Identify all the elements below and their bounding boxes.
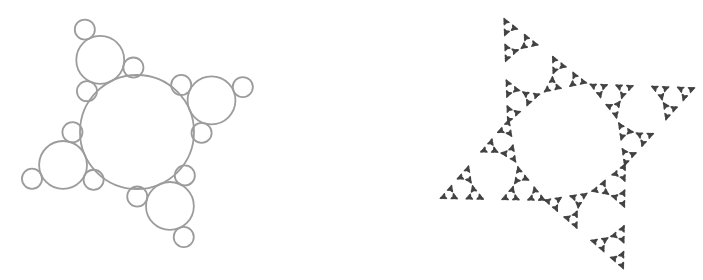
blob-depth-6 <box>584 81 585 82</box>
blob-depth-6 <box>509 82 510 83</box>
blob-depth-6 <box>644 141 645 142</box>
blob-depth-6 <box>616 86 617 87</box>
blob-depth-6 <box>504 46 505 47</box>
blob-depth-6 <box>513 188 514 189</box>
blob-depth-6 <box>521 171 522 172</box>
blob-depth-6 <box>614 113 615 114</box>
blob-depth-6 <box>508 110 509 111</box>
blob-depth-6 <box>624 181 625 182</box>
blob-depth-6 <box>532 196 533 197</box>
blob-depth-6 <box>585 194 586 195</box>
blob-depth-6 <box>584 197 585 198</box>
blob-depth-6 <box>675 106 676 107</box>
blob-depth-6 <box>493 148 494 149</box>
blob-depth-6 <box>670 114 671 115</box>
blob-depth-6 <box>513 186 514 187</box>
blob-depth-6 <box>485 148 486 149</box>
blob-depth-6 <box>623 169 624 170</box>
blob-depth-6 <box>620 135 621 136</box>
blob-depth-6 <box>514 199 515 200</box>
blob-depth-6 <box>621 202 622 203</box>
blob-depth-6 <box>572 76 573 77</box>
blob-depth-6 <box>490 140 491 141</box>
blob-depth-6 <box>491 152 492 153</box>
blob-depth-6 <box>512 118 513 119</box>
blob-depth-6 <box>622 148 623 149</box>
blob-depth-6 <box>511 159 512 160</box>
blob-depth-6 <box>518 89 519 90</box>
blob-depth-6 <box>479 194 480 195</box>
blob-depth-6 <box>472 185 473 186</box>
blob-depth-6 <box>547 87 548 88</box>
circle-fractal-image <box>22 20 253 248</box>
blob-depth-6 <box>528 198 529 199</box>
blob-depth-6 <box>473 187 474 188</box>
blob-depth-6 <box>514 86 515 87</box>
blob-depth-6 <box>604 243 605 244</box>
blob-depth-6 <box>505 34 506 35</box>
blob-depth-6 <box>623 175 624 176</box>
blob-depth-6 <box>528 180 529 181</box>
blob-depth-6 <box>603 245 604 246</box>
blob-depth-6 <box>685 95 686 96</box>
blob-depth-6 <box>642 140 643 141</box>
blob-depth-6 <box>566 66 567 67</box>
blob-depth-6 <box>561 67 562 68</box>
blob-depth-6 <box>536 97 537 98</box>
blob-depth-6 <box>574 73 575 74</box>
blob-depth-6 <box>536 43 537 44</box>
blob-depth-6 <box>500 128 501 129</box>
blob-depth-6 <box>529 101 530 102</box>
blob-depth-6 <box>520 111 521 112</box>
blob-depth-6 <box>522 48 523 49</box>
blob-depth-6 <box>502 153 503 154</box>
blob-depth-6 <box>623 262 624 263</box>
blob-depth-6 <box>452 191 453 192</box>
blob-depth-6 <box>624 207 625 208</box>
blob-depth-6 <box>593 189 594 190</box>
blob-depth-6 <box>600 97 601 98</box>
blob-depth-6 <box>554 198 555 199</box>
blob-depth-6 <box>665 90 666 91</box>
blob-depth-6 <box>624 191 625 192</box>
blob-depth-6 <box>677 106 678 107</box>
blob-depth-6 <box>549 204 550 205</box>
blob-depth-6 <box>576 228 577 229</box>
blob-depth-6 <box>612 236 613 237</box>
blob-depth-6 <box>576 194 577 195</box>
blob-depth-6 <box>514 155 515 156</box>
blob-depth-6 <box>524 38 525 39</box>
blob-depth-6 <box>461 175 462 176</box>
blob-depth-6 <box>506 97 507 98</box>
blob-depth-6 <box>510 94 511 95</box>
blob-depth-6 <box>503 199 504 200</box>
blob-depth-6 <box>617 105 618 106</box>
blob-depth-6 <box>554 82 555 83</box>
blob-depth-6 <box>455 198 456 199</box>
blob-depth-6 <box>595 85 596 86</box>
blob-depth-6 <box>452 189 453 190</box>
blob-depth-6 <box>631 155 632 156</box>
blob-depth-6 <box>552 68 553 69</box>
blob-depth-6 <box>480 195 481 196</box>
blob-depth-6 <box>603 249 604 250</box>
blob-depth-6 <box>641 144 642 145</box>
blob-depth-6 <box>547 202 548 203</box>
blob-depth-6 <box>481 150 482 151</box>
blob-depth-6 <box>507 133 508 134</box>
blob-depth-6 <box>512 191 513 192</box>
blob-depth-6 <box>504 31 505 32</box>
blob-depth-6 <box>510 191 511 192</box>
blob-depth-6 <box>624 227 625 228</box>
blob-depth-6 <box>571 82 572 83</box>
blob-depth-6 <box>627 133 628 134</box>
blob-depth-6 <box>472 198 473 199</box>
blob-depth-6 <box>507 116 508 117</box>
blob-depth-6 <box>527 47 528 48</box>
blob-depth-6 <box>623 126 624 127</box>
blob-depth-6 <box>539 94 540 95</box>
blob-depth-6 <box>496 150 497 151</box>
blob-depth-6 <box>520 170 521 171</box>
blob-depth-6 <box>662 86 663 87</box>
blob-depth-6 <box>559 86 560 87</box>
